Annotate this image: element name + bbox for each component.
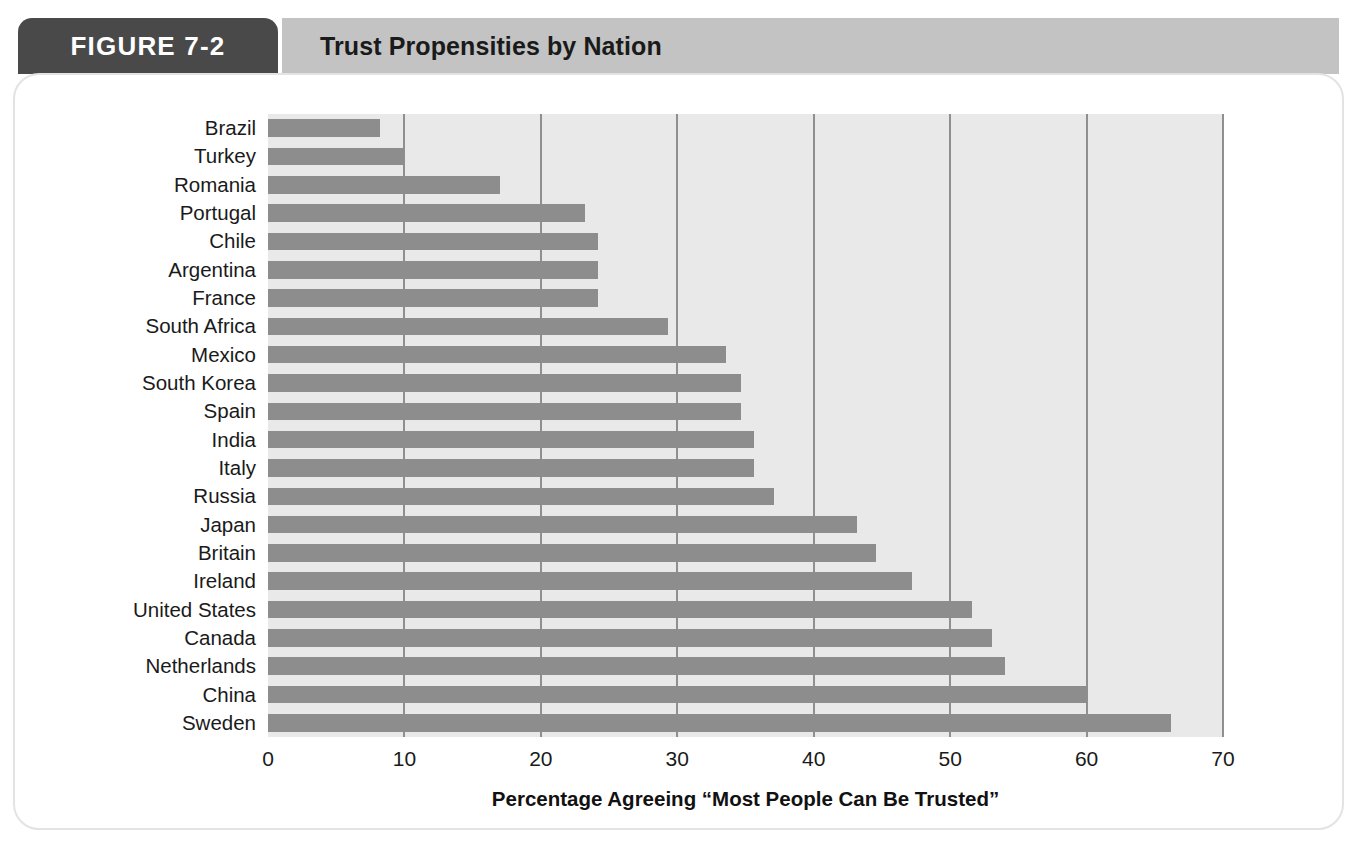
figure-page: Trust Propensities by Nation FIGURE 7-2 … [0, 0, 1357, 855]
figure-number-label: FIGURE 7-2 [70, 31, 225, 62]
figure-title-bar: Trust Propensities by Nation [282, 18, 1339, 74]
figure-title-text: Trust Propensities by Nation [282, 32, 662, 61]
figure-card [13, 73, 1344, 830]
figure-number-tab: FIGURE 7-2 [18, 18, 278, 74]
figure-header: Trust Propensities by Nation FIGURE 7-2 [18, 18, 1339, 74]
